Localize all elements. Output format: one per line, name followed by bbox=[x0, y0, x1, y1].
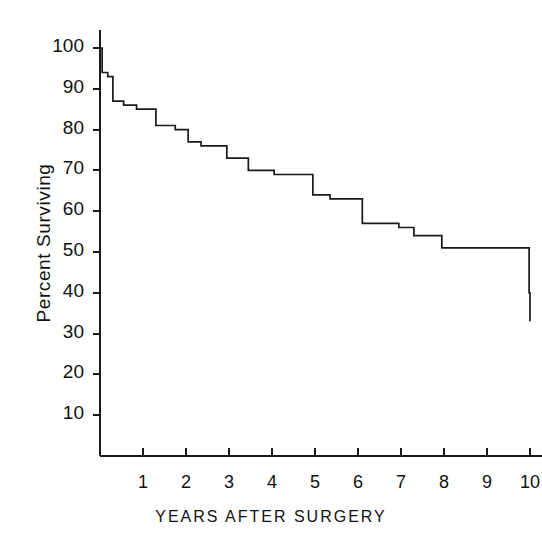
axes bbox=[100, 30, 542, 456]
axis-ticks bbox=[93, 48, 530, 456]
x-tick-label: 3 bbox=[209, 472, 249, 493]
y-tick-label: 10 bbox=[32, 402, 84, 424]
x-tick-label: 10 bbox=[510, 472, 542, 493]
survival-curve-line bbox=[100, 48, 530, 321]
x-tick-label: 1 bbox=[123, 472, 163, 493]
y-tick-label: 90 bbox=[32, 76, 84, 98]
y-tick-label: 20 bbox=[32, 361, 84, 383]
y-tick-label: 50 bbox=[32, 239, 84, 261]
y-tick-label: 30 bbox=[32, 321, 84, 343]
x-axis-title: YEARS AFTER SURGERY bbox=[0, 508, 542, 526]
x-tick-label: 4 bbox=[252, 472, 292, 493]
survival-curve-figure: Percent Surviving YEARS AFTER SURGERY 10… bbox=[0, 0, 542, 546]
y-tick-label: 60 bbox=[32, 198, 84, 220]
y-tick-label: 70 bbox=[32, 157, 84, 179]
y-tick-label: 80 bbox=[32, 117, 84, 139]
x-tick-label: 9 bbox=[467, 472, 507, 493]
y-tick-label: 40 bbox=[32, 280, 84, 302]
x-tick-label: 5 bbox=[295, 472, 335, 493]
x-tick-label: 2 bbox=[166, 472, 206, 493]
x-tick-label: 8 bbox=[424, 472, 464, 493]
y-tick-label: 100 bbox=[32, 35, 84, 57]
x-tick-label: 6 bbox=[338, 472, 378, 493]
x-tick-label: 7 bbox=[381, 472, 421, 493]
